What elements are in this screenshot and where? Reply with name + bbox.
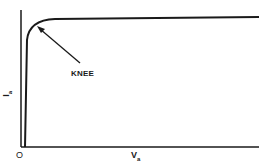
- y-axis-label-main: I: [1, 94, 11, 97]
- characteristic-diagram: [0, 0, 270, 164]
- x-axis-label: Va: [131, 150, 140, 162]
- knee-label: KNEE: [71, 69, 94, 78]
- origin-label: O: [16, 150, 23, 160]
- characteristic-curve: [25, 17, 259, 147]
- x-axis-label-sub: a: [137, 156, 140, 162]
- y-axis-label: Ia: [1, 91, 13, 97]
- knee-arrow-shaft: [40, 29, 80, 63]
- y-axis-label-sub: a: [7, 91, 13, 94]
